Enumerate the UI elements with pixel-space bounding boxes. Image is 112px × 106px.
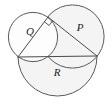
geometry-diagram: Q P R: [0, 0, 112, 106]
label-p: P: [76, 21, 84, 33]
geometry-figure-container: Q P R: [0, 0, 112, 106]
label-r: R: [53, 66, 61, 78]
label-q: Q: [26, 25, 34, 37]
